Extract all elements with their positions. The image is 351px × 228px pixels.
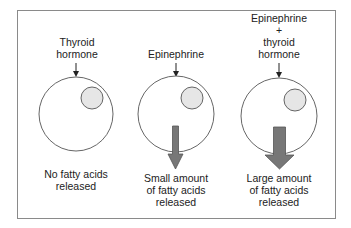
label-line: thyroid	[251, 36, 307, 48]
label-line: Epinephrine	[251, 12, 307, 24]
label-line: Thyroid	[56, 36, 97, 48]
label-line: +	[251, 24, 307, 36]
input-label-combined: Epinephrine + thyroid hormone	[251, 12, 307, 60]
label-line: of fatty acids	[144, 184, 208, 196]
label-line: released	[44, 180, 108, 192]
label-line: Small amount	[144, 172, 208, 184]
label-line: No fatty acids	[44, 168, 108, 180]
input-arrow-icon	[73, 63, 79, 77]
fat-cell	[39, 77, 113, 151]
nucleus	[181, 87, 203, 109]
label-line: released	[247, 196, 312, 208]
panel-combined	[241, 63, 317, 169]
input-label-thyroid: Thyroid hormone	[56, 36, 97, 60]
label-line: Large amount	[247, 172, 312, 184]
input-label-epinephrine: Epinephrine	[148, 48, 204, 60]
nucleus	[284, 89, 306, 111]
panel-thyroid	[39, 63, 113, 151]
nucleus	[81, 87, 103, 109]
label-line: of fatty acids	[247, 184, 312, 196]
label-line: released	[144, 196, 208, 208]
input-arrow-icon	[173, 63, 179, 77]
label-line: hormone	[56, 48, 97, 60]
output-label-epinephrine: Small amount of fatty acids released	[144, 172, 208, 208]
panel-epinephrine	[138, 63, 214, 169]
output-label-combined: Large amount of fatty acids released	[247, 172, 312, 208]
input-arrow-icon	[276, 63, 282, 78]
output-label-thyroid: No fatty acids released	[44, 168, 108, 192]
label-line: Epinephrine	[148, 48, 204, 60]
label-line: hormone	[251, 48, 307, 60]
